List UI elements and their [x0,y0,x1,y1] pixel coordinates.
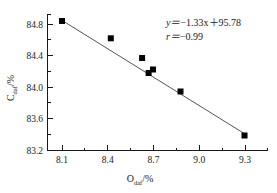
y-tick-label: 83.6 [26,114,43,124]
x-axis-ticks [62,145,268,151]
y-axis-ticks [48,14,53,150]
x-tick-label: 9.0 [193,155,205,165]
y-tick-label: 84.4 [26,51,43,61]
data-point-marker [178,89,184,95]
axis-spines [48,14,269,151]
regression-line [59,19,247,136]
regression-equation-text: y＝−1.33x＋95.78 [165,17,241,28]
correlation-body: −0.99 [180,31,203,42]
x-axis-title: Odaf/% [127,173,154,186]
data-point-marker [139,55,145,61]
x-tick-label: 8.1 [56,155,68,165]
x-tick-label: 8.7 [148,155,160,165]
data-point-marker [108,35,114,41]
svg-text:Cdaf/%: Cdaf/% [5,75,18,101]
correlation-coefficient-text: r＝−0.99 [166,31,203,42]
correlation-variable: r＝ [166,31,180,42]
x-axis-tick-labels: 8.1 8.4 8.7 9.0 9.3 [56,155,251,165]
regression-line-group [59,19,247,136]
x-axis-title-unit: /% [142,173,153,184]
data-point-marker [59,18,65,24]
y-axis-title-unit: /% [5,75,16,86]
data-point-marker [150,67,156,73]
scatter-plot-figure: 84.8 84.4 84.0 83.6 83.2 8.1 8.4 8.7 [0,0,277,193]
equation-body: −1.33x＋95.78 [180,17,241,28]
data-point-marker [242,133,248,139]
x-tick-label: 8.4 [102,155,114,165]
y-axis-tick-labels: 84.8 84.4 84.0 83.6 83.2 [26,20,43,156]
y-tick-label: 84.0 [26,83,43,93]
x-tick-label: 9.3 [239,155,251,165]
equation-variable: y＝ [165,17,180,28]
y-tick-label: 83.2 [26,146,43,156]
y-tick-label: 84.8 [26,20,43,30]
y-axis-title: Cdaf/% [5,75,18,101]
svg-text:Odaf/%: Odaf/% [127,173,154,186]
annotation-block: y＝−1.33x＋95.78 r＝−0.99 [165,17,241,42]
x-axis-title-main: O [127,173,134,184]
chart-canvas: 84.8 84.4 84.0 83.6 83.2 8.1 8.4 8.7 [0,0,277,193]
